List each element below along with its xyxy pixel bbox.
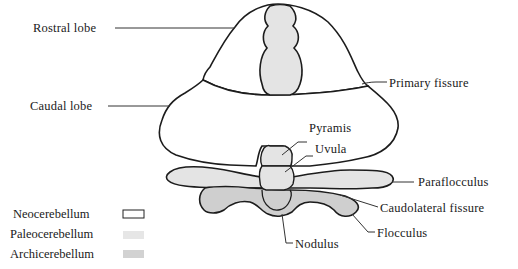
legend-label-neocerebellum: Neocerebellum [13, 207, 89, 221]
label-caudal-lobe: Caudal lobe [30, 99, 92, 113]
rostral-vermis-shape [260, 5, 302, 96]
legend-label-archicerebellum: Archicerebellum [10, 247, 94, 261]
label-uvula: Uvula [315, 142, 347, 156]
label-rostral-lobe: Rostral lobe [33, 21, 96, 35]
label-nodulus: Nodulus [295, 237, 339, 251]
flocculonodular-shape [200, 187, 359, 217]
label-paraflocculus: Paraflocculus [418, 175, 489, 189]
label-caudolateral-fissure: Caudolateral fissure [380, 201, 484, 215]
label-primary-fissure: Primary fissure [389, 76, 469, 90]
cerebellum-diagram: Rostral lobe Caudal lobe Primary fissure… [0, 0, 518, 269]
legend-swatch-archicerebellum [123, 250, 144, 258]
pyramis-shape [261, 146, 293, 167]
legend-swatch-paleocerebellum [123, 231, 144, 239]
label-flocculus: Flocculus [377, 226, 427, 240]
legend-swatch-neocerebellum [123, 210, 144, 218]
label-pyramis: Pyramis [309, 121, 351, 135]
legend-label-paleocerebellum: Paleocerebellum [10, 227, 93, 241]
